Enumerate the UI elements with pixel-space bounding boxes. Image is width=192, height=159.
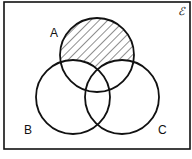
universal-set-symbol: ℰ: [178, 5, 186, 18]
set-a-label: A: [50, 26, 58, 40]
set-c-label: C: [158, 123, 167, 137]
venn-diagram: A B C ℰ: [0, 0, 192, 159]
set-b-label: B: [24, 123, 32, 137]
